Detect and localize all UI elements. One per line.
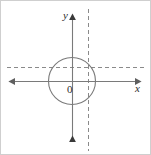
figure-canvas	[1, 1, 150, 154]
coordinate-plane-figure: y x 0	[0, 0, 151, 155]
y-axis-label: y	[63, 10, 68, 21]
x-axis-label: x	[135, 83, 140, 94]
origin-label: 0	[67, 84, 73, 95]
